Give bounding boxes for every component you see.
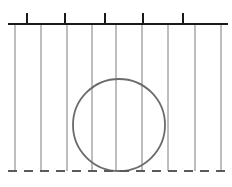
streamline-diagram [0, 0, 232, 187]
figure-container [0, 0, 232, 187]
